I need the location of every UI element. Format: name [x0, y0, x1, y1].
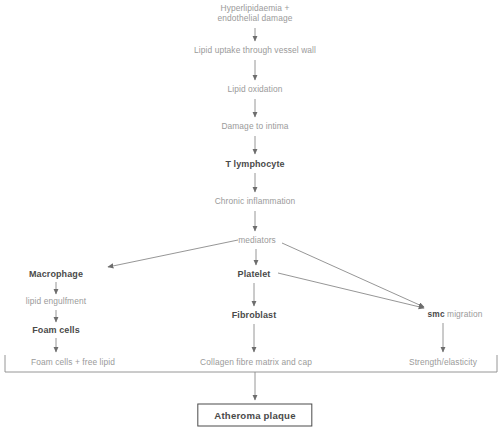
node-mediators: mediators: [238, 236, 276, 246]
node-smc-migration-strong: smc: [428, 309, 445, 319]
node-collagen-fibre-matrix: Collagen fibre matrix and cap: [200, 358, 312, 368]
arrow-platelet-to-smc: [278, 273, 424, 308]
node-lipid-oxidation: Lipid oxidation: [227, 85, 282, 95]
node-smc-migration-plain: migration: [445, 309, 483, 319]
node-smc-migration: smc migration: [428, 310, 483, 320]
node-macrophage: Macrophage: [29, 269, 83, 280]
flowchart-connectors: [0, 0, 503, 442]
node-fibroblast: Fibroblast: [232, 310, 277, 321]
node-platelet: Platelet: [238, 269, 271, 280]
node-chronic-inflammation: Chronic inflammation: [215, 197, 296, 207]
node-foam-cells-free-lipid: Foam cells + free lipid: [31, 358, 115, 368]
node-strength-elasticity: Strength/elasticity: [409, 358, 477, 368]
arrow-mediators-to-macrophage: [108, 240, 238, 267]
node-lipid-uptake: Lipid uptake through vessel wall: [194, 46, 316, 56]
node-atheroma-plaque: Atheroma plaque: [197, 404, 312, 427]
arrow-mediators-to-smc: [282, 243, 424, 307]
node-hyperlipidaemia: Hyperlipidaemia + endothelial damage: [218, 4, 293, 24]
node-t-lymphocyte: T lymphocyte: [225, 159, 284, 170]
node-foam-cells: Foam cells: [32, 325, 80, 336]
node-damage-to-intima: Damage to intima: [221, 122, 288, 132]
node-hyperlipidaemia-line2: endothelial damage: [218, 14, 293, 24]
flowchart-diagram: Hyperlipidaemia + endothelial damage Lip…: [0, 0, 503, 442]
node-lipid-engulfment: lipid engulfment: [26, 297, 86, 307]
